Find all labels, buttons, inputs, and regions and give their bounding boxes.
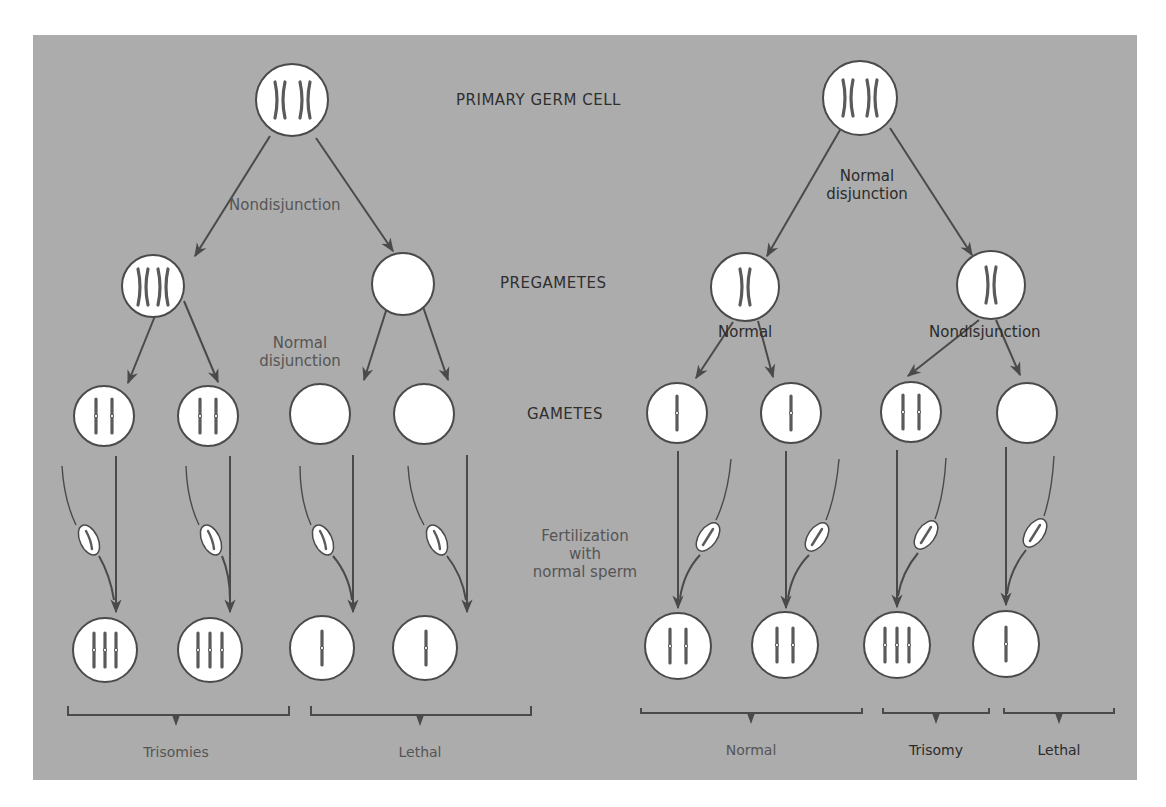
outcome-label-lethal-left: Lethal [399,744,442,760]
nondisjunction-diagram [0,0,1166,807]
outcome-label-trisomies: Trisomies [143,744,208,760]
label-right-normal: Normal [718,323,772,341]
label-right-normal-disjunction: Normal disjunction [812,167,922,203]
outcome-label-normal: Normal [726,742,777,758]
label-left-nondisjunction: Nondisjunction [229,196,341,214]
stage-label-primary-germ-cell: PRIMARY GERM CELL [456,91,621,109]
label-right-nondisjunction: Nondisjunction [929,323,1041,341]
stage-label-gametes: GAMETES [527,405,603,423]
outcome-label-lethal-right: Lethal [1038,742,1081,758]
stage-label-fertilization: Fertilization with normal sperm [530,527,640,581]
outcome-label-trisomy: Trisomy [909,742,963,758]
stage-label-pregametes: PREGAMETES [500,274,606,292]
label-left-normal-disjunction: Normal disjunction [240,334,360,370]
